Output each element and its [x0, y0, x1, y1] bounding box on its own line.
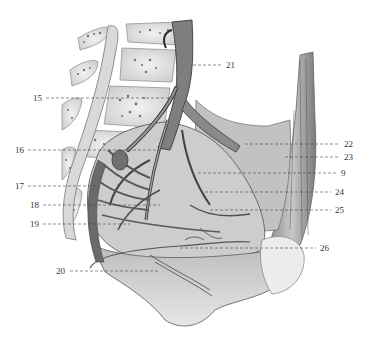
pubic-bone [260, 236, 304, 294]
label-20: 20 [56, 267, 65, 276]
label-23: 23 [344, 153, 353, 162]
anatomy-drawing [0, 0, 367, 337]
label-18: 18 [30, 201, 39, 210]
label-15: 15 [33, 94, 42, 103]
pelvis-illustration: 21 15 16 17 18 19 20 22 23 9 24 25 26 [0, 0, 367, 337]
label-22: 22 [344, 140, 353, 149]
label-26: 26 [320, 244, 329, 253]
label-17: 17 [15, 182, 24, 191]
label-9: 9 [341, 169, 346, 178]
label-16: 16 [15, 146, 24, 155]
label-21: 21 [226, 61, 235, 70]
label-25: 25 [335, 206, 344, 215]
label-19: 19 [30, 220, 39, 229]
label-24: 24 [335, 188, 344, 197]
